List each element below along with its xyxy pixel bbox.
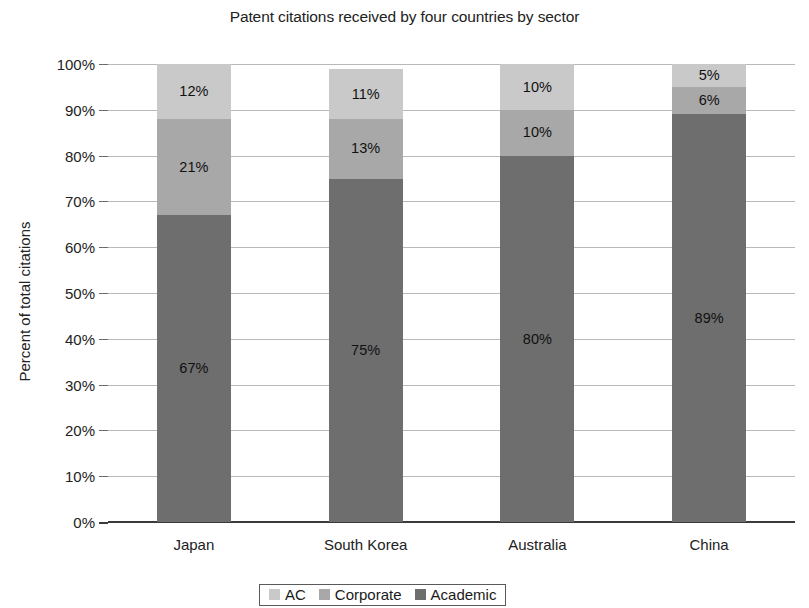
y-axis-tick-label: 30% <box>15 376 95 393</box>
bar-group[interactable]: 75%13%11% <box>329 64 403 522</box>
y-axis-tick-mark <box>99 247 108 248</box>
bar-group[interactable]: 67%21%12% <box>157 64 231 522</box>
bar-value-label: 75% <box>351 343 380 358</box>
legend-item[interactable]: Academic <box>415 587 497 602</box>
y-axis-tick-mark <box>99 339 108 340</box>
bar-value-label: 80% <box>523 332 552 347</box>
bar-value-label: 67% <box>179 361 208 376</box>
stacked-bar-chart: Patent citations received by four countr… <box>0 0 809 608</box>
legend-label: Academic <box>431 587 497 602</box>
bar-group[interactable]: 80%10%10% <box>500 64 574 522</box>
bar-group[interactable]: 89%6%5% <box>672 64 746 522</box>
bar-segment[interactable]: 5% <box>672 64 746 87</box>
bar-segment[interactable]: 13% <box>329 119 403 179</box>
y-axis-tick-label: 100% <box>15 56 95 73</box>
legend-swatch-icon <box>319 589 330 600</box>
bar-value-label: 5% <box>699 68 720 83</box>
bar-value-label: 21% <box>179 160 208 175</box>
bar-stack: 75%13%11% <box>329 69 403 522</box>
chart-legend: ACCorporateAcademic <box>259 584 506 606</box>
y-axis-tick-label: 50% <box>15 285 95 302</box>
x-axis-tick-label: South Korea <box>324 536 407 553</box>
y-axis-tick-mark <box>99 430 108 431</box>
legend-swatch-icon <box>269 589 280 600</box>
bar-segment[interactable]: 80% <box>500 156 574 522</box>
y-axis-tick-mark <box>99 156 108 157</box>
y-axis-tick-mark <box>99 64 108 65</box>
bar-stack: 80%10%10% <box>500 64 574 522</box>
y-axis-tick-label: 20% <box>15 422 95 439</box>
x-axis-tick-label: Australia <box>508 536 566 553</box>
bar-segment[interactable]: 10% <box>500 64 574 110</box>
y-axis-tick-label: 70% <box>15 193 95 210</box>
bar-value-label: 11% <box>352 87 380 102</box>
bars-layer: 67%21%12%75%13%11%80%10%10%89%6%5% <box>108 64 795 522</box>
legend-item[interactable]: Corporate <box>319 587 402 602</box>
legend-swatch-icon <box>415 589 426 600</box>
y-axis-tick-label: 60% <box>15 239 95 256</box>
y-axis-tick-mark <box>99 385 108 386</box>
y-axis-tick-label: 10% <box>15 468 95 485</box>
legend-item[interactable]: AC <box>269 587 306 602</box>
y-axis-tick-mark <box>99 522 108 524</box>
y-axis-tick-label: 0% <box>15 514 95 531</box>
legend-label: AC <box>285 587 306 602</box>
bar-value-label: 13% <box>351 141 380 156</box>
bar-value-label: 6% <box>699 93 720 108</box>
y-axis-tick-label: 40% <box>15 330 95 347</box>
x-axis-tick-label: Japan <box>173 536 214 553</box>
bar-segment[interactable]: 89% <box>672 114 746 522</box>
bar-value-label: 12% <box>179 84 208 99</box>
y-axis-tick-label: 80% <box>15 147 95 164</box>
y-axis-title: Percent of total citations <box>16 132 33 472</box>
bar-stack: 89%6%5% <box>672 64 746 522</box>
bar-segment[interactable]: 10% <box>500 110 574 156</box>
bar-segment[interactable]: 75% <box>329 179 403 523</box>
chart-title: Patent citations received by four countr… <box>0 8 809 26</box>
y-axis-tick-mark <box>99 476 108 477</box>
legend-label: Corporate <box>335 587 402 602</box>
bar-stack: 67%21%12% <box>157 64 231 522</box>
bar-segment[interactable]: 11% <box>329 69 403 119</box>
y-axis-tick-mark <box>99 201 108 202</box>
bar-segment[interactable]: 12% <box>157 64 231 119</box>
y-axis-tick-mark <box>99 293 108 294</box>
bar-value-label: 10% <box>523 80 552 95</box>
x-axis-tick-label: China <box>690 536 729 553</box>
y-axis-tick-label: 90% <box>15 101 95 118</box>
y-axis-tick-mark <box>99 110 108 111</box>
bar-segment[interactable]: 67% <box>157 215 231 522</box>
bar-segment[interactable]: 21% <box>157 119 231 215</box>
bar-value-label: 89% <box>695 311 724 326</box>
plot-area: 67%21%12%75%13%11%80%10%10%89%6%5% <box>108 64 795 522</box>
bar-value-label: 10% <box>523 125 552 140</box>
bar-segment[interactable]: 6% <box>672 87 746 114</box>
